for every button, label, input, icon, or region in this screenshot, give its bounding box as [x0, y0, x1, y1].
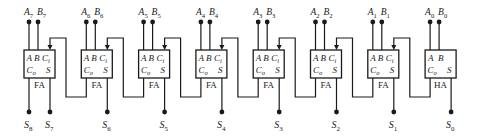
pin-a-label: A	[312, 53, 319, 63]
pin-s-label: S	[333, 65, 338, 75]
pin-s-label: S	[161, 65, 166, 75]
adder-type-label: FA	[263, 80, 274, 90]
sum-output-terminal	[334, 110, 339, 115]
pin-s-label: S	[103, 65, 108, 75]
sum-output-label: S6	[102, 119, 111, 133]
pin-s-label: S	[390, 65, 395, 75]
pin-a-label: A	[197, 53, 204, 63]
input-b-label: B1	[381, 7, 390, 19]
input-b-terminal	[36, 20, 41, 25]
pin-b-label: B	[206, 53, 212, 63]
pin-b-label: B	[378, 53, 384, 63]
adder-type-label: FA	[206, 80, 217, 90]
pin-a-label: A	[26, 53, 33, 63]
input-b-label: B2	[324, 7, 333, 19]
input-a-label: A1	[367, 7, 377, 19]
pin-b-label: B	[438, 53, 444, 63]
input-b-terminal	[208, 20, 213, 25]
input-a-terminal	[370, 20, 375, 25]
sum-output-label: S0	[446, 119, 455, 133]
sum-output-terminal	[449, 110, 454, 115]
input-b-label: B4	[209, 7, 219, 19]
sum-output-label: S7	[45, 119, 54, 133]
input-a-label: A4	[195, 7, 206, 19]
adder-fa-bit-5: A5B5ABCiCoSFAS5	[138, 7, 201, 133]
sum-output-terminal	[48, 110, 53, 115]
input-a-terminal	[256, 20, 261, 25]
adder-type-label: FA	[378, 80, 389, 90]
input-b-terminal	[437, 20, 442, 25]
carry-output-label: S8	[24, 119, 33, 133]
adder-fa-bit-7: A7B7ABCiCoSFAS7S8	[23, 7, 86, 133]
pin-a-label: A	[255, 53, 262, 63]
input-b-terminal	[150, 20, 155, 25]
sum-output-terminal	[277, 110, 282, 115]
input-b-terminal	[322, 20, 327, 25]
pin-b-label: B	[91, 53, 97, 63]
input-a-terminal	[199, 20, 204, 25]
adder-fa-bit-2: A2B2ABCiCoSFAS2	[310, 7, 373, 133]
input-a-label: A3	[252, 7, 263, 19]
pin-s-label: S	[46, 65, 51, 75]
input-b-label: B7	[37, 7, 47, 19]
input-a-terminal	[84, 20, 89, 25]
input-a-label: A6	[80, 7, 91, 19]
adder-type-label: FA	[34, 80, 45, 90]
sum-output-terminal	[220, 110, 225, 115]
adder-type-label: FA	[321, 80, 332, 90]
input-b-label: B0	[438, 7, 448, 19]
input-a-terminal	[313, 20, 318, 25]
sum-output-terminal	[391, 110, 396, 115]
input-a-label: A7	[23, 7, 34, 19]
pin-b-label: B	[321, 53, 327, 63]
pin-b-label: B	[263, 53, 269, 63]
adder-ha-bit-0: A0B0ABCoSHAS0	[424, 7, 456, 133]
pin-a-label: A	[83, 53, 90, 63]
adder-type-label: HA	[434, 80, 447, 90]
pin-a-label: A	[369, 53, 376, 63]
adder-fa-bit-6: A6B6ABCiCoSFAS6	[80, 7, 143, 133]
adder-circuit: A7B7ABCiCoSFAS7S8A6B6ABCiCoSFAS6A5B5ABCi…	[0, 0, 483, 138]
sum-output-label: S5	[160, 119, 169, 133]
pin-a-label: A	[140, 53, 147, 63]
adder-type-label: FA	[149, 80, 160, 90]
adder-fa-bit-3: A3B3ABCiCoSFAS3	[252, 7, 315, 133]
ripple-carry-adder-diagram: A7B7ABCiCoSFAS7S8A6B6ABCiCoSFAS6A5B5ABCi…	[0, 0, 483, 138]
sum-output-label: S1	[389, 119, 398, 133]
input-b-terminal	[265, 20, 270, 25]
input-b-terminal	[93, 20, 98, 25]
input-b-label: B5	[152, 7, 162, 19]
sum-output-label: S4	[217, 119, 226, 133]
pin-s-label: S	[275, 65, 280, 75]
carry-output-terminal	[27, 110, 32, 115]
pin-b-label: B	[149, 53, 155, 63]
input-b-terminal	[379, 20, 384, 25]
sum-output-terminal	[162, 110, 167, 115]
pin-a-label: A	[427, 53, 434, 63]
sum-output-label: S2	[332, 119, 341, 133]
adder-fa-bit-4: A4B4ABCiCoSFAS4	[195, 7, 258, 133]
input-a-terminal	[27, 20, 32, 25]
pin-b-label: B	[34, 53, 40, 63]
sum-output-label: S3	[274, 119, 283, 133]
adder-fa-bit-1: A1B1ABCiCoSFAS1	[367, 7, 430, 133]
input-a-label: A2	[310, 7, 320, 19]
input-a-label: A5	[138, 7, 149, 19]
adder-type-label: FA	[91, 80, 102, 90]
pin-s-label: S	[218, 65, 223, 75]
input-a-label: A0	[424, 7, 435, 19]
input-b-label: B3	[266, 7, 276, 19]
input-b-label: B6	[94, 7, 104, 19]
pin-s-label: S	[447, 65, 452, 75]
sum-output-terminal	[105, 110, 110, 115]
input-a-terminal	[141, 20, 146, 25]
input-a-terminal	[428, 20, 433, 25]
